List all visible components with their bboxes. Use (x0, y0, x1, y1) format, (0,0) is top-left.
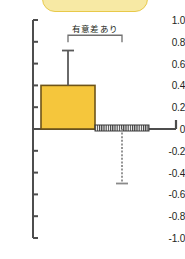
significance-bracket (0, 0, 185, 259)
significance-label: 有意差あり (68, 22, 122, 34)
chart-figure: 1.00.80.60.40.20-0.2-0.4-0.6-0.8-1.0 有意差… (0, 0, 185, 259)
